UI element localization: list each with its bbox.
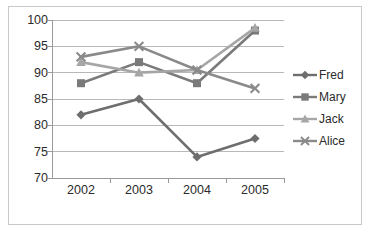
y-axis-tick-labels: 100959085807570 — [8, 20, 48, 178]
data-point-square — [135, 58, 143, 66]
data-point-diamond — [76, 110, 85, 119]
x-axis-label: 2004 — [183, 184, 211, 197]
legend-item-mary[interactable]: Mary — [292, 86, 354, 108]
legend-label: Alice — [318, 135, 345, 147]
legend-item-fred[interactable]: Fred — [292, 64, 354, 86]
legend-marker-diamond-icon — [292, 68, 318, 82]
gridlines — [52, 20, 284, 178]
legend-label: Mary — [318, 91, 346, 103]
data-point-diamond — [301, 71, 309, 79]
chart-legend: FredMaryJackAlice — [292, 64, 354, 152]
y-axis-label: 95 — [8, 40, 48, 53]
x-axis-label: 2003 — [125, 184, 153, 197]
y-axis-label: 70 — [8, 172, 48, 185]
plot-svg — [52, 20, 284, 178]
y-axis-label: 75 — [8, 145, 48, 158]
x-axis-tick-labels: 2002200320042005 — [52, 184, 284, 202]
legend-marker-x-icon — [292, 134, 318, 148]
legend-item-jack[interactable]: Jack — [292, 108, 354, 130]
y-axis-label: 90 — [8, 66, 48, 79]
y-axis-label: 100 — [8, 14, 48, 27]
data-point-square — [301, 93, 308, 100]
axis-lines — [47, 20, 284, 183]
data-point-square — [77, 79, 85, 87]
plot-area — [52, 20, 284, 178]
legend-marker-square-icon — [292, 90, 318, 104]
legend-item-alice[interactable]: Alice — [292, 130, 354, 152]
legend-label: Fred — [318, 69, 344, 81]
legend-marker-triangle-icon — [292, 112, 318, 126]
y-axis-label: 85 — [8, 93, 48, 106]
x-axis-label: 2002 — [67, 184, 95, 197]
data-point-square — [193, 79, 201, 87]
x-axis-label: 2005 — [241, 184, 269, 197]
series-line — [81, 28, 255, 73]
line-chart: 100959085807570 2002200320042005 FredMar… — [0, 0, 370, 233]
data-point-diamond — [250, 134, 259, 143]
y-axis-label: 80 — [8, 119, 48, 132]
series-layer — [76, 23, 260, 161]
series-line — [81, 99, 255, 157]
legend-label: Jack — [318, 113, 344, 125]
